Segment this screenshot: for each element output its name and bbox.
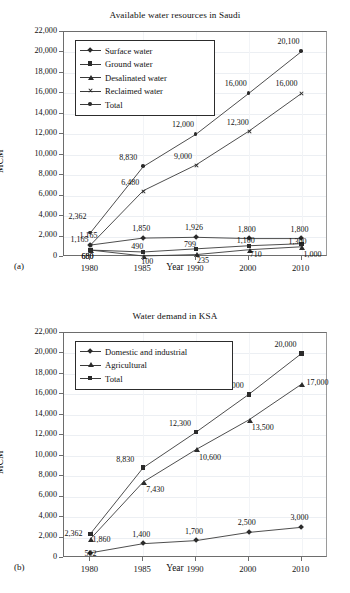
chart-a-title: Available water resources in Saudi — [0, 0, 350, 23]
y-axis-tick-mark — [59, 256, 63, 257]
marker-square-icon — [88, 61, 92, 65]
data-label: 2,500 — [238, 519, 256, 527]
marker-diamond-icon — [87, 348, 93, 354]
data-label: 1,700 — [185, 528, 203, 536]
marker-square-icon — [247, 392, 251, 396]
marker-x-icon — [88, 88, 93, 93]
legend-label: Surface water — [105, 46, 152, 56]
y-axis-tick-label: 14,000 — [0, 410, 57, 418]
data-label: 1,000 — [304, 251, 322, 259]
marker-dot-icon — [299, 49, 303, 53]
y-axis-tick-label: 0 — [0, 553, 57, 561]
data-label: 502 — [84, 550, 96, 558]
data-label: 20,000 — [275, 341, 297, 349]
legend-item[interactable]: Reclaimed water — [80, 85, 208, 99]
legend-item[interactable]: Agricultural — [80, 359, 226, 373]
marker-triangle-icon — [299, 245, 305, 250]
data-label: 8,830 — [116, 456, 134, 464]
legend-label: Ground water — [105, 59, 153, 69]
marker-square-icon — [88, 376, 92, 380]
y-axis-tick-mark — [59, 557, 63, 558]
data-label: 13,500 — [252, 424, 274, 432]
x-axis-tick-mark — [89, 256, 90, 260]
marker-triangle-icon — [247, 418, 253, 423]
data-label: 1,926 — [185, 224, 203, 232]
y-axis-tick-label: 2,000 — [0, 532, 57, 540]
data-label: 710 — [250, 251, 262, 259]
data-label: 1,165 — [70, 236, 88, 244]
marker-x-icon — [141, 189, 146, 194]
y-axis-tick-label: 18,000 — [0, 369, 57, 377]
marker-x-icon — [299, 91, 304, 96]
legend-key-icon — [80, 86, 101, 96]
legend-label: Total — [105, 374, 123, 384]
data-label: 1,800 — [238, 226, 256, 234]
data-label: 799 — [184, 241, 196, 249]
chart-b-x-axis-title: Year — [0, 563, 350, 573]
y-axis-tick-label: 0 — [0, 252, 57, 260]
chart-legend: Surface waterGround waterDesalinated wat… — [75, 40, 215, 116]
figure-a: Available water resources in Saudi 22,00… — [0, 0, 350, 295]
data-label: 2,362 — [68, 213, 86, 221]
legend-label: Desalinated water — [105, 73, 167, 83]
marker-triangle-icon — [88, 362, 94, 367]
y-axis-tick-label: 10,000 — [0, 150, 57, 158]
data-label: 680 — [81, 253, 93, 261]
x-axis-tick-mark — [248, 256, 249, 260]
data-label: 12,000 — [172, 121, 194, 129]
data-label: 20,100 — [278, 38, 300, 46]
legend-label: Total — [105, 100, 123, 110]
marker-x-icon — [194, 163, 199, 168]
y-axis-tick-label: 12,000 — [0, 129, 57, 137]
data-label: 490 — [131, 243, 143, 251]
legend-label: Reclaimed water — [105, 86, 163, 96]
y-axis-tick-label: 22,000 — [0, 27, 57, 35]
marker-square-icon — [194, 430, 198, 434]
y-axis-tick-label: 20,000 — [0, 47, 57, 55]
chart-b-plot-wrap: 22,00020,00018,00016,00014,00012,00010,0… — [0, 324, 350, 574]
legend-key-icon — [80, 360, 101, 370]
data-label: 17,000 — [307, 379, 329, 387]
legend-label: Agricultural — [105, 360, 147, 370]
marker-triangle-icon — [88, 75, 94, 80]
marker-triangle-icon — [299, 382, 305, 387]
marker-x-icon — [247, 129, 252, 134]
data-label: 1,400 — [132, 531, 150, 539]
x-axis-tick-mark — [301, 256, 302, 260]
y-axis-tick-label: 8,000 — [0, 471, 57, 479]
legend-key-icon — [80, 374, 101, 384]
data-label: 12,300 — [227, 119, 249, 127]
legend-item[interactable]: Ground water — [80, 58, 208, 72]
legend-item[interactable]: Total — [80, 372, 226, 386]
y-axis-tick-label: 4,000 — [0, 211, 57, 219]
chart-b-plot-area: 5021,4001,7002,5003,0001,8607,43010,6001… — [63, 332, 327, 557]
legend-item[interactable]: Desalinated water — [80, 71, 208, 85]
data-label: 10,600 — [199, 454, 221, 462]
data-label: 1,800 — [291, 226, 309, 234]
data-label: 16,000 — [276, 80, 298, 88]
data-label: 2,362 — [64, 530, 82, 538]
data-label: 1,860 — [92, 536, 110, 544]
legend-key-icon — [80, 100, 101, 110]
chart-a-x-axis-title: Year — [0, 262, 350, 272]
data-label: 3,000 — [291, 514, 309, 522]
chart-a-plot-wrap: 22,00020,00018,00016,00014,00012,00010,0… — [0, 23, 350, 273]
chart-a-y-axis-title: MCM — [0, 150, 5, 173]
legend-label: Domestic and industrial — [105, 347, 187, 357]
x-axis-tick-mark — [195, 557, 196, 561]
y-axis-tick-label: 14,000 — [0, 109, 57, 117]
legend-item[interactable]: Total — [80, 98, 208, 112]
y-axis-tick-label: 6,000 — [0, 491, 57, 499]
marker-dot-icon — [141, 164, 145, 168]
legend-item[interactable]: Domestic and industrial — [80, 345, 226, 359]
marker-square-icon — [141, 465, 145, 469]
marker-x-icon — [88, 243, 93, 248]
y-axis-tick-label: 16,000 — [0, 88, 57, 96]
marker-dot-icon — [194, 132, 198, 136]
x-axis-tick-mark — [248, 557, 249, 561]
marker-dot-icon — [247, 91, 251, 95]
chart-legend: Domestic and industrialAgriculturalTotal — [75, 341, 233, 390]
marker-square-icon — [88, 532, 92, 536]
legend-key-icon — [80, 347, 101, 357]
legend-item[interactable]: Surface water — [80, 44, 208, 58]
